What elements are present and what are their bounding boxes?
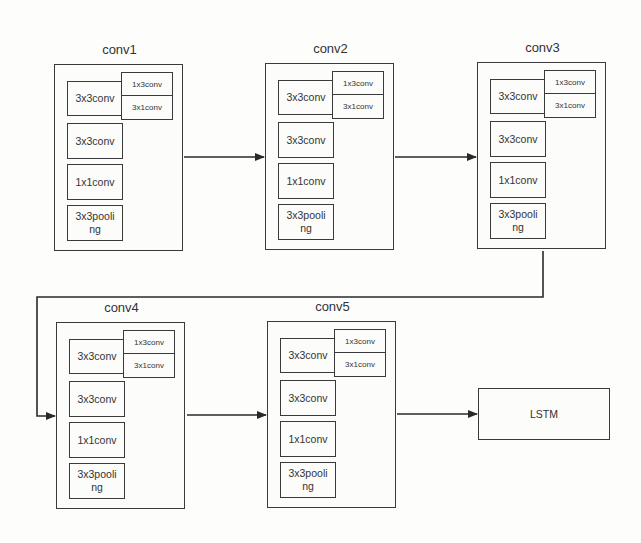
- op-3x3pooling: 3x3pooli ng: [67, 205, 123, 241]
- op-3x3pooling-line1: 3x3pooli: [75, 210, 114, 223]
- op-3x3pooling: 3x3pooli ng: [490, 203, 546, 239]
- op-3x3pooling-line1: 3x3pooli: [286, 209, 325, 222]
- op-3x3pooling-line2: ng: [302, 480, 314, 493]
- op-1x3conv: 1x3conv: [544, 70, 596, 95]
- op-3x3pooling-line2: ng: [300, 222, 312, 235]
- lstm-block: LSTM: [478, 388, 610, 440]
- op-3x1conv: 3x1conv: [121, 95, 173, 120]
- lstm-label: LSTM: [530, 408, 558, 420]
- op-3x3pooling-line2: ng: [89, 223, 101, 236]
- op-3x3conv: 3x3conv: [69, 381, 125, 417]
- block-conv1: 3x3conv 1x3conv 3x1conv 3x3conv 1x1conv …: [54, 64, 183, 251]
- op-3x1conv: 3x1conv: [123, 353, 175, 378]
- block-title-conv5: conv5: [267, 299, 398, 314]
- block-title-conv1: conv1: [54, 42, 185, 57]
- op-3x1conv: 3x1conv: [544, 93, 596, 118]
- op-3x3pooling-line2: ng: [512, 221, 524, 234]
- op-3x3conv-main: 3x3conv: [490, 79, 546, 114]
- op-3x3conv-main: 3x3conv: [280, 338, 336, 373]
- op-3x1conv: 3x1conv: [332, 94, 384, 119]
- op-3x3pooling-line2: ng: [91, 481, 103, 494]
- op-3x3pooling-line1: 3x3pooli: [77, 468, 116, 481]
- op-1x1conv: 1x1conv: [280, 421, 336, 457]
- op-3x1conv: 3x1conv: [334, 352, 386, 377]
- op-1x1conv: 1x1conv: [490, 162, 546, 198]
- block-title-conv4: conv4: [56, 300, 187, 315]
- op-3x3conv: 3x3conv: [67, 123, 123, 159]
- op-3x3pooling-line1: 3x3pooli: [498, 208, 537, 221]
- op-1x3conv: 1x3conv: [123, 330, 175, 355]
- block-conv3: 3x3conv 1x3conv 3x1conv 3x3conv 1x1conv …: [477, 62, 606, 249]
- op-1x1conv: 1x1conv: [69, 422, 125, 458]
- block-conv2: 3x3conv 1x3conv 3x1conv 3x3conv 1x1conv …: [265, 63, 394, 250]
- op-3x3conv-main: 3x3conv: [67, 81, 123, 116]
- op-1x3conv: 1x3conv: [121, 72, 173, 97]
- op-3x3conv-main: 3x3conv: [69, 339, 125, 374]
- op-3x3pooling: 3x3pooli ng: [69, 463, 125, 499]
- op-3x3conv: 3x3conv: [278, 122, 334, 158]
- op-1x1conv: 1x1conv: [278, 163, 334, 199]
- op-3x3conv: 3x3conv: [280, 380, 336, 416]
- op-3x3conv-main: 3x3conv: [278, 80, 334, 115]
- block-title-conv3: conv3: [477, 40, 608, 55]
- op-3x3conv: 3x3conv: [490, 121, 546, 157]
- op-1x3conv: 1x3conv: [334, 329, 386, 354]
- block-conv5: 3x3conv 1x3conv 3x1conv 3x3conv 1x1conv …: [267, 321, 396, 508]
- op-3x3pooling: 3x3pooli ng: [278, 204, 334, 240]
- block-conv4: 3x3conv 1x3conv 3x1conv 3x3conv 1x1conv …: [56, 322, 185, 509]
- op-1x3conv: 1x3conv: [332, 71, 384, 96]
- diagram-canvas: conv1 3x3conv 1x3conv 3x1conv 3x3conv 1x…: [0, 0, 641, 543]
- block-title-conv2: conv2: [265, 41, 396, 56]
- op-3x3pooling-line1: 3x3pooli: [288, 467, 327, 480]
- op-1x1conv: 1x1conv: [67, 164, 123, 200]
- op-3x3pooling: 3x3pooli ng: [280, 462, 336, 498]
